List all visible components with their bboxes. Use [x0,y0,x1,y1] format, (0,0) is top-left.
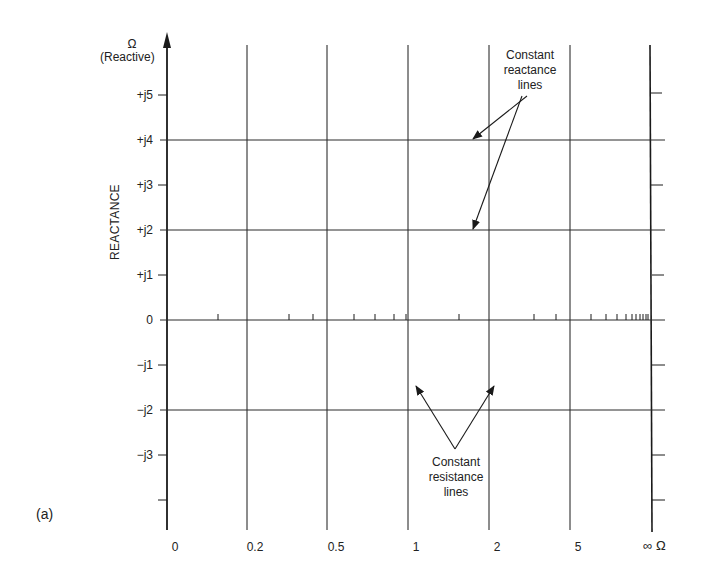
zero-line-minor-ticks [218,314,648,320]
x-tick-label-infinity: ∞ Ω [643,539,666,553]
x-tick-label: 0.5 [316,540,356,554]
x-tick-label: 0 [155,540,195,554]
y-axis-unit-caption: (Reactive) [100,50,155,64]
reactance-annotation: Constant reactance lines [492,48,568,93]
y-axis-ticks [158,95,167,500]
annotation-line: Constant [416,455,496,470]
annotation-line: lines [416,485,496,500]
constant-resistance-lines [247,45,570,530]
y-tick-label: +j2 [113,223,153,237]
resistance-arrows [416,386,494,449]
y-axis-arrow-icon [163,32,171,48]
y-tick-label: −j2 [113,403,153,417]
y-axis-unit: Ω [118,37,146,51]
y-tick-label: +j4 [113,133,153,147]
y-tick-label: −j3 [113,448,153,462]
y-tick-label: −j1 [113,358,153,372]
annotation-line: reactance [492,63,568,78]
panel-label: (a) [36,507,53,521]
y-axis-title: REACTANCE [108,182,122,262]
impedance-plane-diagram [0,0,718,578]
x-tick-label: 2 [477,540,517,554]
reactance-arrows [473,96,527,229]
constant-reactance-lines [160,140,665,410]
x-tick-label: 0.2 [235,540,275,554]
y-tick-label: +j1 [113,268,153,282]
right-axis-ticks [651,93,665,500]
annotation-line: resistance [416,470,496,485]
infinity-resistance-line [650,45,652,532]
x-tick-label: 5 [558,540,598,554]
resistance-annotation: Constant resistance lines [416,455,496,500]
annotation-line: Constant [492,48,568,63]
x-tick-label: 1 [396,540,436,554]
y-tick-label: 0 [113,313,153,327]
annotation-line: lines [492,78,568,93]
y-tick-label: +j5 [113,88,153,102]
y-tick-label: +j3 [113,178,153,192]
